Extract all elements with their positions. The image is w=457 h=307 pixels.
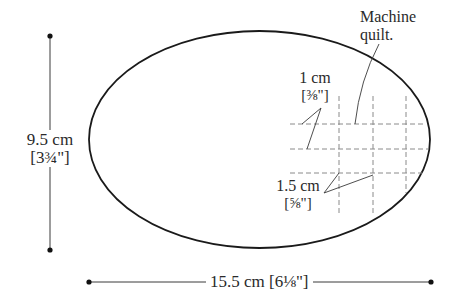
height-in-text: [3¾"] <box>20 149 80 166</box>
width-dimension-endpoint <box>428 279 433 284</box>
small-spacing-label: 1 cm [⅜"] <box>292 70 338 103</box>
oval-outline <box>89 31 430 248</box>
leader-lines <box>302 44 379 193</box>
height-cm-text: 9.5 cm <box>20 131 80 148</box>
height-dimension-endpoint <box>47 247 52 252</box>
machine-quilt-line1: Machine <box>360 9 416 25</box>
machine-quilt-label: Machine quilt. <box>360 9 416 43</box>
height-dimension-endpoint <box>47 33 52 38</box>
large-spacing-leader <box>324 175 373 193</box>
small-spacing-cm: 1 cm <box>292 70 338 86</box>
large-spacing-label: 1.5 cm [⅝"] <box>272 178 324 211</box>
width-dimension-endpoint <box>86 279 91 284</box>
large-spacing-cm: 1.5 cm <box>272 178 324 194</box>
small-spacing-in: [⅜"] <box>292 88 338 103</box>
large-spacing-in: [⅝"] <box>272 196 324 211</box>
width-label: 15.5 cm [6⅛"] <box>206 273 313 290</box>
machine-quilt-line2: quilt. <box>360 27 416 43</box>
height-label: 9.5 cm [3¾"] <box>20 130 80 167</box>
